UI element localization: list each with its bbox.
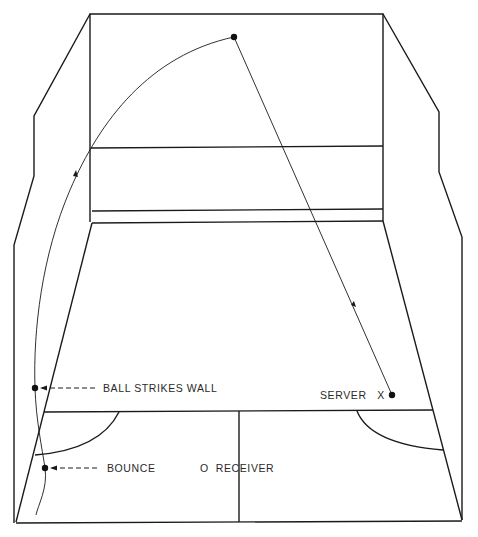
squash-court-diagram: BALL STRIKES WALL BOUNCE O RECEIVER SERV…: [0, 0, 478, 537]
court-drawing: [0, 0, 478, 537]
front-wall-tin-top: [92, 209, 383, 211]
right-service-box-arc: [357, 411, 443, 450]
label-server: SERVER X: [320, 389, 385, 401]
serve-point-marker: [389, 392, 395, 398]
label-bounce: BOUNCE: [107, 462, 156, 474]
front-wall-service-line: [91, 146, 383, 148]
front-wall-outline: [90, 14, 383, 222]
label-ball-strikes-wall: BALL STRIKES WALL: [103, 382, 217, 394]
floor-right-edge: [383, 221, 462, 520]
front-wall-hit-marker: [231, 34, 237, 40]
front-wall-tin-bottom: [92, 221, 383, 223]
floor-left-edge: [16, 223, 92, 522]
left-service-box-arc: [35, 412, 119, 455]
side-wall-hit-marker: [32, 385, 38, 391]
arrow-serve-direction-icon: [351, 301, 356, 307]
ball-flight-path: [35, 37, 234, 515]
pointer-arrowhead-wall-strike-icon: [40, 386, 47, 391]
label-receiver: O RECEIVER: [200, 462, 274, 474]
bounce-marker: [42, 465, 48, 471]
pointer-arrowhead-bounce-icon: [50, 466, 57, 471]
serve-path-to-front-wall: [234, 37, 392, 395]
